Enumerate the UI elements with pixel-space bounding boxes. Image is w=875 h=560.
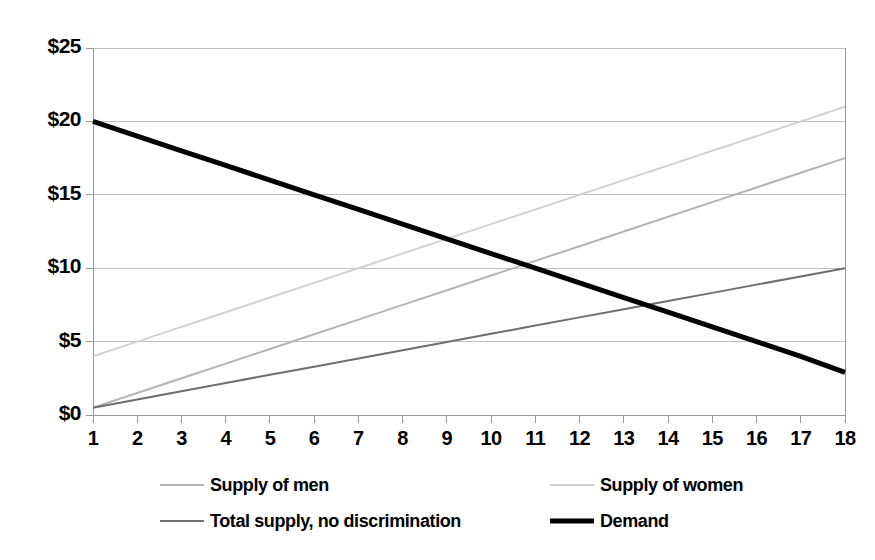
y-axis-label-25: $25: [47, 34, 81, 58]
x-axis-label-16: 16: [737, 427, 777, 450]
x-axis-label-15: 15: [692, 427, 732, 450]
x-axis-label-17: 17: [781, 427, 821, 450]
legend-item-1[interactable]: Supply of women: [550, 470, 743, 500]
y-axis-label-5: $5: [59, 328, 81, 352]
y-axis-label-20: $20: [47, 107, 81, 131]
x-axis-label-8: 8: [383, 427, 423, 450]
x-tick-marks-group: [93, 415, 845, 423]
x-axis-label-4: 4: [206, 427, 246, 450]
chart-legend: Supply of menSupply of womenTotal supply…: [140, 470, 860, 545]
legend-item-label: Demand: [600, 511, 669, 532]
legend-row-0: Supply of menSupply of women: [140, 470, 860, 500]
y-axis-label-15: $15: [47, 181, 81, 205]
legend-item-0[interactable]: Supply of men: [160, 470, 329, 500]
legend-item-3[interactable]: Demand: [550, 506, 669, 536]
chart-container: $0$5$10$15$20$25 12345678910111213141516…: [0, 0, 875, 560]
x-axis-label-5: 5: [250, 427, 290, 450]
legend-item-2[interactable]: Total supply, no discrimination: [160, 506, 461, 536]
legend-line-swatch-icon: [160, 515, 204, 527]
legend-line-swatch-icon: [550, 515, 594, 527]
x-axis-label-14: 14: [648, 427, 688, 450]
x-axis-label-12: 12: [560, 427, 600, 450]
x-axis-label-6: 6: [294, 427, 334, 450]
legend-row-1: Total supply, no discriminationDemand: [140, 506, 860, 536]
series-line-0: [93, 158, 845, 408]
x-axis-label-3: 3: [161, 427, 201, 450]
x-axis-label-11: 11: [515, 427, 555, 450]
series-line-1: [93, 107, 845, 357]
y-axis-label-10: $10: [47, 254, 81, 278]
x-axis-label-13: 13: [604, 427, 644, 450]
data-series-group: [93, 107, 845, 408]
x-axis-label-18: 18: [825, 427, 865, 450]
series-line-2: [93, 268, 845, 407]
legend-item-label: Total supply, no discrimination: [210, 511, 461, 532]
y-tick-marks-group: [86, 48, 93, 415]
x-axis-label-9: 9: [427, 427, 467, 450]
legend-item-label: Supply of men: [210, 475, 329, 496]
x-axis-label-10: 10: [471, 427, 511, 450]
y-axis-label-0: $0: [59, 401, 81, 425]
x-axis-label-2: 2: [117, 427, 157, 450]
series-line-3: [93, 121, 845, 372]
x-axis-label-7: 7: [338, 427, 378, 450]
legend-item-label: Supply of women: [600, 475, 743, 496]
legend-line-swatch-icon: [160, 479, 204, 491]
x-axis-label-1: 1: [73, 427, 113, 450]
legend-line-swatch-icon: [550, 479, 594, 491]
